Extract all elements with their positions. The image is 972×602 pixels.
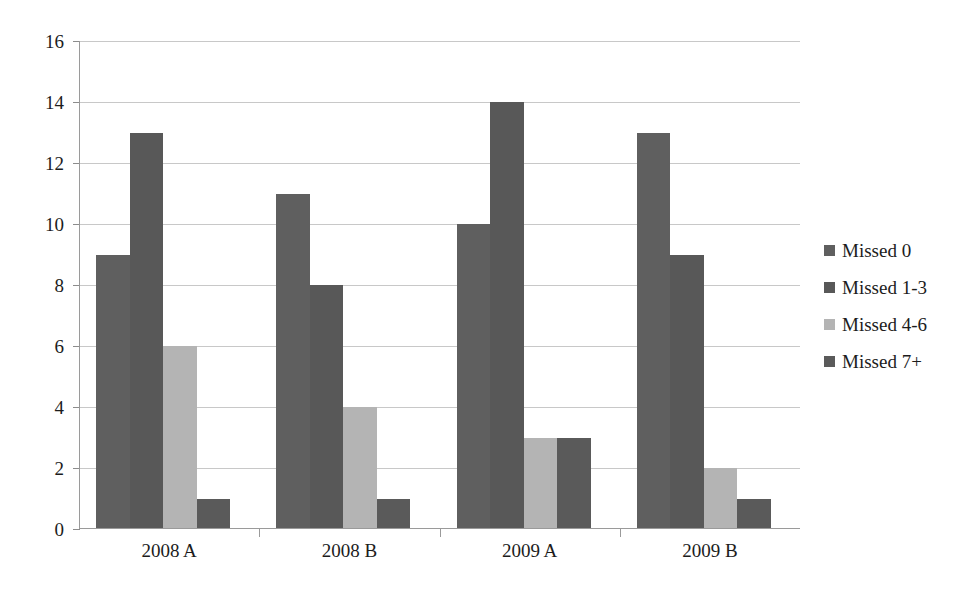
legend-swatch-icon [824,282,835,293]
chart-legend: Missed 0Missed 1-3Missed 4-6Missed 7+ [824,232,970,380]
y-tick-label: 10 [4,215,64,234]
y-tick-label: 8 [4,276,64,295]
y-tick-label: 2 [4,459,64,478]
legend-label: Missed 4-6 [842,314,927,336]
legend-label: Missed 0 [842,240,911,262]
x-tick-label: 2008 A [79,540,259,562]
y-tick-label: 12 [4,154,64,173]
y-tick-label: 16 [4,32,64,51]
plot-area [79,41,800,529]
x-axis-separators [79,529,801,539]
plot-frame [79,41,800,529]
chart-figure: Attendance 0246810121416 2008 A2008 B200… [0,0,972,602]
y-tick-label: 14 [4,93,64,112]
x-tick-separator [620,529,621,537]
x-tick-label: 2008 B [259,540,439,562]
x-tick-separator [259,529,260,537]
legend-swatch-icon [824,245,835,256]
y-axis-labels: 0246810121416 [0,41,64,529]
y-tick-label: 0 [4,520,64,539]
legend-label: Missed 7+ [842,351,922,373]
x-tick-separator [440,529,441,537]
y-tick-label: 6 [4,337,64,356]
legend-swatch-icon [824,319,835,330]
legend-item[interactable]: Missed 7+ [824,343,970,380]
x-tick-label: 2009 B [620,540,800,562]
y-tick-label: 4 [4,398,64,417]
legend-swatch-icon [824,356,835,367]
x-tick-label: 2009 A [440,540,620,562]
legend-label: Missed 1-3 [842,277,927,299]
chart-title: Attendance [14,0,89,4]
legend-item[interactable]: Missed 4-6 [824,306,970,343]
legend-item[interactable]: Missed 0 [824,232,970,269]
legend-item[interactable]: Missed 1-3 [824,269,970,306]
x-axis-labels: 2008 A2008 B2009 A2009 B [79,540,800,574]
